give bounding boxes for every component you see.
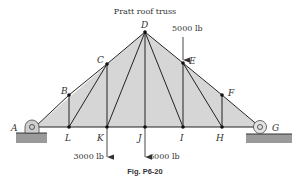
label-J: J bbox=[136, 133, 143, 143]
joint-L bbox=[67, 125, 71, 129]
joint-F bbox=[220, 93, 224, 97]
ground-left bbox=[16, 133, 47, 143]
load-label-E: 5000 lb bbox=[172, 24, 203, 33]
joint-B bbox=[67, 93, 71, 97]
label-K: K bbox=[96, 133, 105, 143]
joint-H bbox=[220, 125, 224, 129]
load-label-K: 3000 lb bbox=[73, 152, 104, 161]
figure-caption: Fig. P6-20 bbox=[127, 167, 162, 176]
diagram-title: Pratt roof truss bbox=[114, 7, 176, 16]
joint-C bbox=[105, 62, 109, 66]
label-H: H bbox=[215, 133, 224, 143]
joint-D bbox=[143, 30, 147, 34]
label-D: D bbox=[140, 20, 148, 30]
ground-right bbox=[246, 134, 292, 143]
label-A: A bbox=[10, 123, 18, 133]
roller-icon bbox=[254, 121, 267, 134]
truss-diagram: Pratt roof truss A B C D E F G H I J K L… bbox=[0, 0, 296, 188]
label-C: C bbox=[97, 55, 104, 65]
load-label-J: 6000 lb bbox=[149, 152, 180, 161]
label-G: G bbox=[272, 123, 279, 133]
pin-bracket-icon bbox=[25, 120, 39, 133]
label-B: B bbox=[60, 86, 68, 96]
joint-I bbox=[181, 125, 185, 129]
label-F: F bbox=[227, 88, 235, 98]
label-E: E bbox=[188, 56, 196, 66]
label-L: L bbox=[64, 133, 71, 143]
joint-E bbox=[181, 61, 185, 65]
label-I: I bbox=[179, 133, 184, 143]
